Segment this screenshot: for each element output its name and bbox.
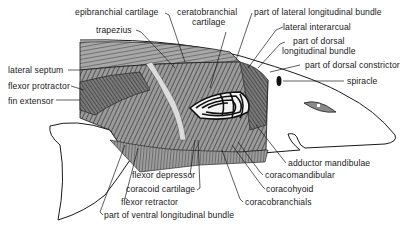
label-part-dorsal-longitudinal-line1: part of dorsal	[293, 36, 345, 46]
label-coracobranchials: coracobranchials	[245, 197, 312, 207]
label-coracoid-cartilage: coracoid cartilage	[126, 184, 195, 194]
label-flexor-protractor: flexor protractor	[8, 81, 70, 91]
label-part-dorsal-longitudinal-line2: longitudinal bundle	[282, 46, 356, 56]
spiracle-opening	[277, 76, 282, 86]
anatomy-diagram: epibranchial cartilage ceratobranchial c…	[0, 0, 408, 225]
label-coracohyoid: coracohyoid	[266, 184, 313, 194]
label-trapezius: trapezius	[96, 25, 132, 35]
label-spiracle: spiracle	[347, 76, 377, 86]
label-lateral-septum: lateral septum	[8, 65, 63, 75]
label-part-lateral-longitudinal-bundle: part of lateral longitudinal bundle	[254, 7, 382, 17]
label-ceratobranchial-cartilage-line2: cartilage	[192, 17, 225, 27]
label-adductor-mandibulae: adductor mandibulae	[288, 158, 370, 168]
label-flexor-retractor: flexor retractor	[121, 197, 178, 207]
label-part-ventral-longitudinal-bundle: part of ventral longitudinal bundle	[104, 210, 234, 220]
label-part-dorsal-constrictor: part of dorsal constrictor	[305, 60, 400, 70]
label-ceratobranchial-cartilage-line1: ceratobranchial	[177, 7, 237, 17]
label-flexor-depressor: flexor depressor	[132, 170, 195, 180]
eye	[304, 102, 336, 113]
shark-illustration	[0, 0, 408, 225]
label-epibranchial-cartilage: epibranchial cartilage	[75, 7, 158, 17]
label-fin-extensor: fin extensor	[8, 96, 54, 106]
label-coracomandibular: coracomandibular	[265, 170, 335, 180]
label-lateral-interarcual: lateral interarcual	[283, 22, 351, 32]
